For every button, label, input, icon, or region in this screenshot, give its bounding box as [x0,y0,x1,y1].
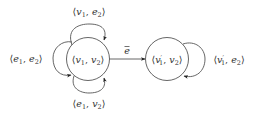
edge-label-loop-top: ⟨v1, e2⟩ [73,6,106,19]
edge-label-loop-bottom: ⟨e1, v2⟩ [73,98,106,111]
loop-right-edge [183,43,205,77]
edge-label-loop-right: ⟨v′1, e2⟩ [213,54,244,67]
node-label-v1prime-v2: ⟨v′1, v2⟩ [152,54,183,67]
edge-label-main: e [124,45,130,56]
node-label-v1-v2: ⟨v1, v2⟩ [72,54,105,67]
loop-bottom-edge [73,76,105,93]
loop-left-edge [53,42,72,76]
edge-label-loop-left: ⟨e1, e2⟩ [9,53,42,66]
state-diagram: ⟨v1, v2⟩ ⟨v′1, v2⟩ ⟨v1, e2⟩ ⟨e1, e2⟩ ⟨e1… [0,0,256,120]
